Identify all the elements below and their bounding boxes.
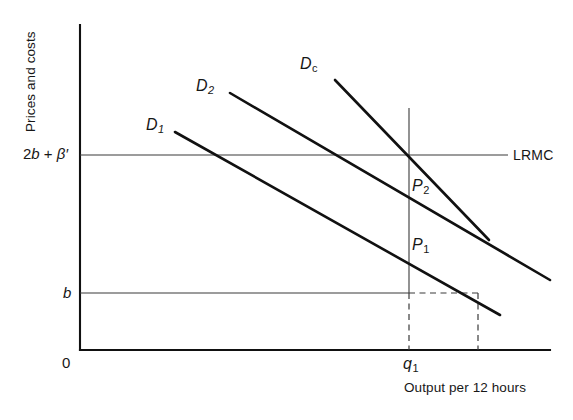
tick-var-b: b [31,145,39,162]
curve-label-d2: D2 [196,78,214,94]
point-label-p1: P1 [412,237,429,253]
curve-label-dc: Dc [300,56,317,72]
x-tick-label-q1: q1 [403,356,418,372]
point-subscript-p2: 2 [423,184,429,196]
origin-label: 0 [62,355,70,370]
economics-figure: Prices and costs Output per 12 hours 2b … [0,0,573,420]
point-subscript-p1: 1 [423,243,429,255]
point-label-p2: P2 [412,178,429,194]
y-axis-title: Prices and costs [24,31,38,132]
curve-subscript-d1: 1 [158,123,164,135]
point-symbol-p2: P [412,177,423,194]
curve-symbol-dc: D [300,55,312,72]
curve-symbol-d2: D [196,77,208,94]
x-tick-subscript: 1 [412,362,418,374]
y-tick-label-2b-plus-beta: 2b + β′ [23,146,68,161]
x-axis-title: Output per 12 hours [404,381,526,395]
lrmc-label: LRMC [513,148,553,162]
tick-operator: + [40,145,57,162]
chart-canvas [0,0,573,420]
demand-curve-dc [335,80,489,240]
curve-subscript-dc: c [312,62,318,74]
curve-subscript-d2: 2 [208,84,214,96]
curve-symbol-d1: D [146,116,158,133]
point-symbol-p1: P [412,236,423,253]
curve-label-d1: D1 [146,117,164,133]
y-tick-label-b: b [63,285,71,300]
tick-var-beta: β′ [57,145,68,162]
x-tick-symbol: q [403,355,412,372]
